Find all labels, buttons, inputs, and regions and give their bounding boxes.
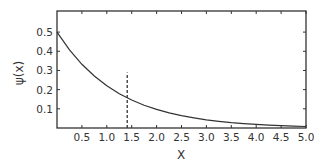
y-tick-label: 0.1 — [36, 103, 53, 115]
x-tick-label: 2.5 — [173, 131, 190, 143]
data-series — [57, 32, 306, 126]
x-tick-label: 2.0 — [148, 131, 165, 143]
y-tick-label: 0.2 — [36, 84, 53, 96]
line-chart: 0.51.01.52.02.53.03.54.04.55.0 0.10.20.3… — [0, 0, 326, 168]
y-tick-label: 0.3 — [36, 64, 53, 76]
x-tick-label: 4.5 — [273, 131, 290, 143]
x-axis-label: X — [177, 148, 185, 162]
x-tick-label: 1.0 — [98, 131, 115, 143]
x-tick-label: 3.0 — [198, 131, 215, 143]
x-tick-label: 3.5 — [223, 131, 240, 143]
tick-marks — [57, 11, 306, 128]
plot-border — [57, 11, 306, 128]
y-tick-label: 0.4 — [36, 45, 53, 57]
plot-frame — [57, 11, 306, 128]
x-tick-label: 4.0 — [248, 131, 265, 143]
y-tick-labels: 0.10.20.30.40.5 — [36, 26, 53, 115]
x-tick-label: 5.0 — [298, 131, 315, 143]
y-axis-label: ψ(x) — [12, 61, 26, 85]
y-tick-label: 0.5 — [36, 26, 53, 38]
x-tick-label: 1.5 — [123, 131, 140, 143]
x-tick-labels: 0.51.01.52.02.53.03.54.04.55.0 — [74, 131, 315, 143]
series-line — [57, 32, 306, 126]
x-tick-label: 0.5 — [74, 131, 91, 143]
